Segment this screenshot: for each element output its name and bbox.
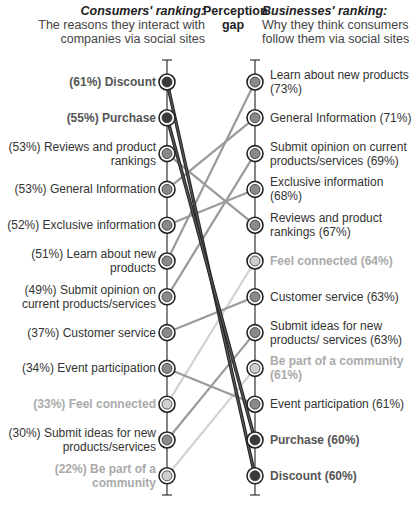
business-label: Exclusive information (68%) (270, 175, 418, 203)
business-node-fill (250, 363, 260, 373)
business-label: Discount (60%) (270, 469, 418, 483)
business-label: Be part of a community (61%) (270, 354, 418, 382)
business-node-fill (250, 77, 260, 87)
business-label: General Information (71%) (270, 111, 418, 125)
consumer-node-fill (162, 256, 172, 266)
consumer-node-fill (162, 220, 172, 230)
consumer-label: (30%) Submit ideas for new products/serv… (0, 426, 156, 454)
consumer-label: (34%) Event participation (0, 361, 156, 375)
business-label: Reviews and product rankings (67%) (270, 211, 418, 239)
consumer-label: (52%) Exclusive information (0, 218, 156, 232)
consumer-node-fill (162, 184, 172, 194)
consumer-label: (61%) Discount (0, 75, 156, 89)
business-node-fill (250, 220, 260, 230)
business-label: Submit opinion on current products/servi… (270, 140, 418, 168)
business-node-fill (250, 471, 260, 481)
business-node-fill (250, 292, 260, 302)
business-node-fill (250, 328, 260, 338)
gap-line (167, 297, 255, 333)
gap-line (167, 118, 255, 440)
consumer-label: (51%) Learn about new products (0, 247, 156, 275)
business-label: Purchase (60%) (270, 433, 418, 447)
business-label: Learn about new products (73%) (270, 68, 418, 96)
consumer-node-fill (162, 399, 172, 409)
consumer-label: (33%) Feel connected (0, 397, 156, 411)
business-node-fill (250, 184, 260, 194)
consumer-label: (22%) Be part of a community (0, 462, 156, 490)
consumer-label: (55%) Purchase (0, 111, 156, 125)
consumer-node-fill (162, 435, 172, 445)
business-node-fill (250, 113, 260, 123)
business-node-fill (250, 256, 260, 266)
gap-line (167, 118, 255, 190)
consumer-node-fill (162, 149, 172, 159)
consumer-label: (53%) General Information (0, 182, 156, 196)
consumer-node-fill (162, 363, 172, 373)
consumer-label: (37%) Customer service (0, 326, 156, 340)
consumer-label: (49%) Submit opinion on current products… (0, 283, 156, 311)
business-node-fill (250, 149, 260, 159)
consumer-node-fill (162, 328, 172, 338)
consumer-label: (53%) Reviews and product rankings (0, 140, 156, 168)
business-label: Event participation (61%) (270, 397, 418, 411)
consumer-node-fill (162, 77, 172, 87)
business-node-fill (250, 435, 260, 445)
business-node-fill (250, 399, 260, 409)
business-label: Feel connected (64%) (270, 254, 418, 268)
business-label: Submit ideas for new products/ services … (270, 319, 418, 347)
business-label: Customer service (63%) (270, 290, 418, 304)
consumer-node-fill (162, 471, 172, 481)
consumer-node-fill (162, 113, 172, 123)
consumer-node-fill (162, 292, 172, 302)
gap-line (167, 189, 255, 225)
